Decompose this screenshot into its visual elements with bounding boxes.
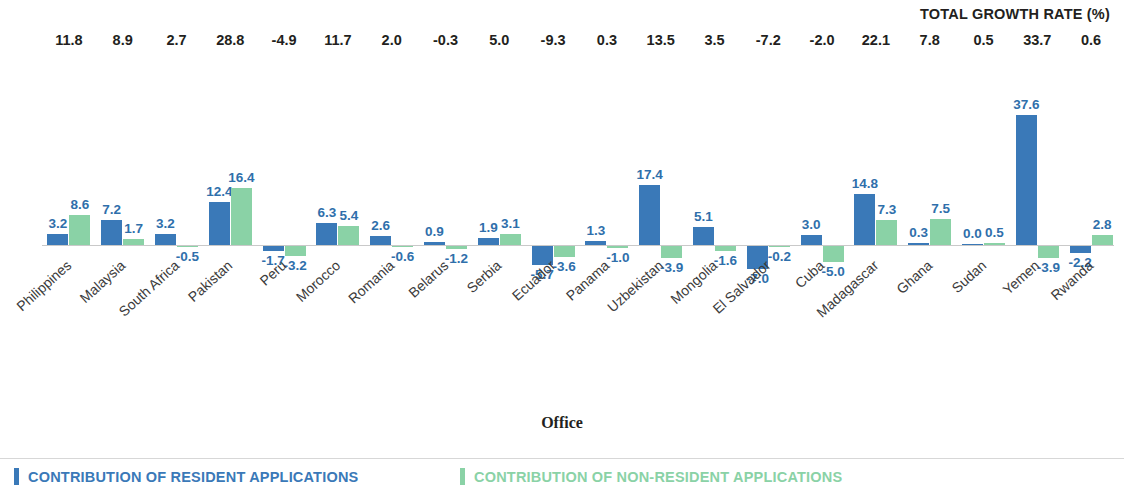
bar-resident[interactable] bbox=[209, 202, 230, 245]
bar-resident[interactable] bbox=[478, 238, 499, 245]
bar-value-label: 16.4 bbox=[225, 170, 258, 185]
bar-resident[interactable] bbox=[155, 234, 176, 245]
bar-nonresident[interactable] bbox=[876, 220, 897, 245]
bar-nonresident[interactable] bbox=[231, 188, 252, 245]
bar-value-label: 3.0 bbox=[795, 217, 828, 232]
bar-nonresident[interactable] bbox=[69, 215, 90, 245]
bar-value-label: 3.1 bbox=[494, 216, 527, 231]
x-axis-category-labels: PhilippinesMalaysiaSouth AfricaPakistanP… bbox=[42, 249, 1118, 369]
bar-value-label: 17.4 bbox=[633, 167, 666, 182]
bar-resident[interactable] bbox=[316, 223, 337, 245]
bar-value-label: 8.6 bbox=[63, 197, 96, 212]
bar-nonresident[interactable] bbox=[930, 219, 951, 245]
bar-value-label: 0.5 bbox=[978, 225, 1011, 240]
bar-resident[interactable] bbox=[801, 235, 822, 245]
bar-value-label: 7.5 bbox=[924, 201, 957, 216]
bar-resident[interactable] bbox=[370, 236, 391, 245]
bar-value-label: 2.6 bbox=[364, 218, 397, 233]
bar-nonresident[interactable] bbox=[500, 234, 521, 245]
bar-value-label: 0.9 bbox=[418, 224, 451, 239]
bar-value-label: 7.2 bbox=[95, 202, 128, 217]
bar-value-label: 3.2 bbox=[149, 216, 182, 231]
bar-value-label: 7.3 bbox=[870, 202, 903, 217]
bar-resident[interactable] bbox=[639, 185, 660, 245]
bar-value-label: 5.4 bbox=[332, 208, 365, 223]
legend-label-nonresident: CONTRIBUTION OF NON-RESIDENT APPLICATION… bbox=[474, 469, 842, 485]
zero-baseline bbox=[42, 245, 1114, 246]
bar-resident[interactable] bbox=[1016, 115, 1037, 245]
bar-value-label: 14.8 bbox=[848, 176, 881, 191]
chart-legend: CONTRIBUTION OF RESIDENT APPLICATIONS CO… bbox=[8, 468, 1118, 492]
legend-item-nonresident[interactable]: CONTRIBUTION OF NON-RESIDENT APPLICATION… bbox=[460, 468, 842, 485]
bar-nonresident[interactable] bbox=[338, 226, 359, 245]
total-growth-rate-header: TOTAL GROWTH RATE (%) bbox=[920, 6, 1110, 22]
legend-swatch-resident-icon bbox=[14, 468, 19, 485]
bar-nonresident[interactable] bbox=[1092, 235, 1113, 245]
bar-value-label: 37.6 bbox=[1010, 97, 1043, 112]
legend-item-resident[interactable]: CONTRIBUTION OF RESIDENT APPLICATIONS bbox=[14, 468, 358, 485]
legend-divider bbox=[0, 458, 1124, 459]
bar-value-label: 2.8 bbox=[1086, 217, 1119, 232]
bar-resident[interactable] bbox=[693, 227, 714, 245]
bar-value-label: 1.7 bbox=[117, 221, 150, 236]
legend-swatch-nonresident-icon bbox=[460, 468, 465, 485]
bar-value-label: 5.1 bbox=[687, 209, 720, 224]
legend-label-resident: CONTRIBUTION OF RESIDENT APPLICATIONS bbox=[28, 469, 358, 485]
bar-resident[interactable] bbox=[47, 234, 68, 245]
x-axis-title: Office bbox=[0, 414, 1124, 432]
bar-value-label: 1.3 bbox=[579, 223, 612, 238]
